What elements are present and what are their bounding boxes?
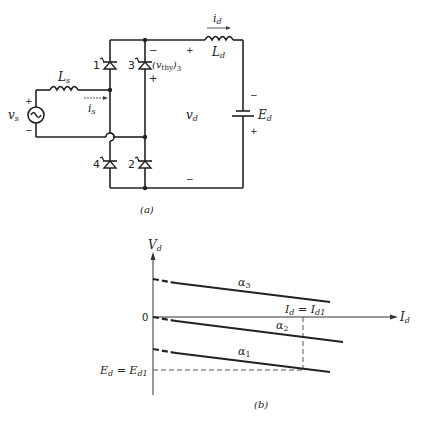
thyristor-2-icon: [135, 157, 152, 168]
node-dot-icon: [143, 186, 147, 190]
wire-crossover-icon: [106, 133, 114, 137]
thyristor-3-icon: [135, 58, 152, 69]
y-axis-label: Vd: [148, 238, 162, 253]
dc-inductor-label: Ld: [211, 45, 225, 60]
x-axis-arrow-icon: [390, 315, 398, 320]
thyristor-1-icon: [100, 58, 117, 69]
alpha2-label: α2: [276, 319, 289, 333]
thyristor-4-icon: [100, 157, 117, 168]
source-current-label: is: [88, 102, 96, 116]
dc-voltage-minus: −: [186, 174, 194, 184]
source-minus: −: [25, 125, 33, 135]
source-current-arrow-icon: [84, 96, 108, 100]
thyristor-3-minus: −: [149, 45, 157, 56]
thyristor-2-label: 2: [128, 158, 135, 171]
figure: vs + − Ls is 1 3 4 2 (vthy)3 − + + vd − …: [0, 0, 424, 422]
battery-plus: +: [250, 126, 258, 136]
source-inductor-icon: [50, 87, 78, 91]
sine-wave-icon: [31, 113, 41, 118]
y-axis-arrow-icon: [151, 252, 156, 260]
source-label: vs: [8, 108, 19, 123]
dc-current-label: id: [213, 12, 222, 26]
dc-voltage-plus: +: [186, 45, 194, 55]
alpha3-label: α3: [238, 276, 251, 290]
alpha2-dashed-segment: [153, 317, 176, 321]
battery-label: Ed: [257, 108, 272, 123]
thyristor-3-plus: +: [149, 73, 157, 84]
caption-b: (b): [254, 399, 268, 410]
alpha2-line: [176, 321, 343, 342]
source-inductor-label: Ls: [57, 70, 70, 85]
origin-label: 0: [142, 312, 148, 323]
dc-inductor-icon: [205, 37, 233, 41]
source-plus: +: [25, 96, 33, 106]
thyristor-1-label: 1: [93, 59, 100, 72]
dc-current-arrow-icon: [207, 26, 231, 30]
thyristor-3-voltage-label: (vthy)3: [152, 59, 181, 73]
alpha1-dashed-segment: [153, 349, 176, 353]
alpha1-label: α1: [238, 345, 251, 359]
node-dot-icon: [143, 38, 147, 42]
alpha3-dashed-segment: [153, 279, 176, 283]
x-axis-label: Id: [399, 310, 410, 325]
thyristor-3-label: 3: [128, 59, 135, 72]
alpha3-line: [176, 283, 330, 302]
id1-annotation: Id = Id1: [284, 303, 325, 317]
circuit-diagram: vs + − Ls is 1 3 4 2 (vthy)3 − + + vd − …: [8, 12, 272, 215]
vd-id-plot: Vd Id 0 α3 α2 α1 Id = Id1 Ed = Ed1 (b): [99, 238, 410, 410]
dc-voltage-label: vd: [186, 108, 198, 123]
caption-a: (a): [140, 204, 154, 215]
ed1-annotation: Ed = Ed1: [99, 364, 148, 378]
battery-minus: −: [250, 90, 258, 100]
alpha1-line: [176, 353, 330, 372]
thyristor-4-label: 4: [93, 158, 100, 171]
